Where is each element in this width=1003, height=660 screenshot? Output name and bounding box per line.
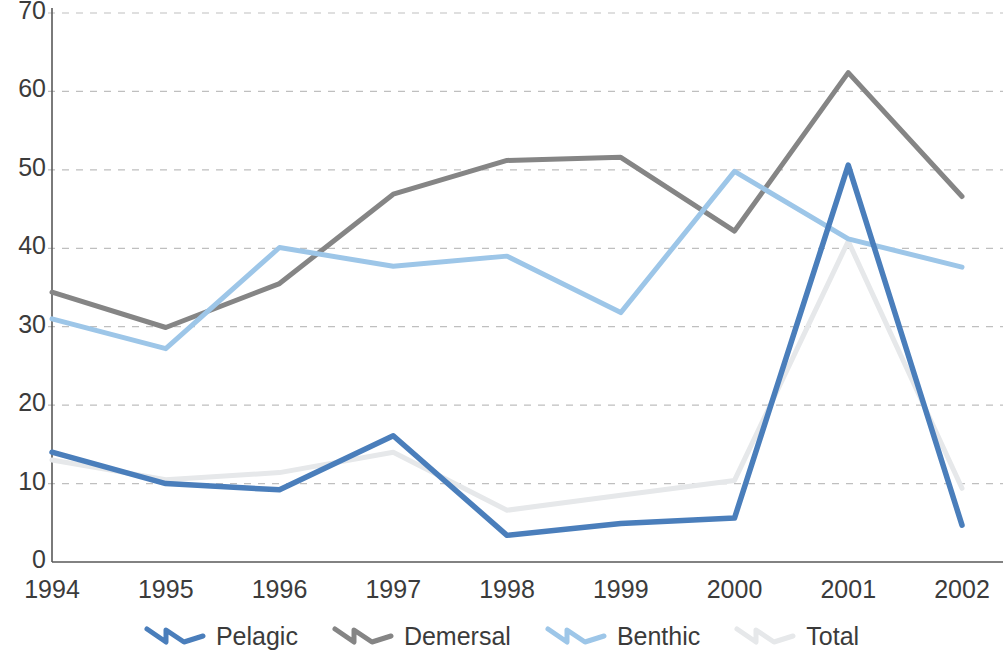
legend-line-icon bbox=[144, 623, 206, 649]
x-tick-label: 2000 bbox=[685, 575, 785, 604]
x-tick-label: 2002 bbox=[912, 575, 1003, 604]
y-tick-label: 30 bbox=[0, 310, 46, 339]
plot-area bbox=[0, 0, 1003, 660]
x-tick-label: 1996 bbox=[230, 575, 330, 604]
y-tick-label: 60 bbox=[0, 74, 46, 103]
y-tick-label: 0 bbox=[0, 545, 46, 574]
legend-line-icon bbox=[545, 623, 607, 649]
y-tick-label: 50 bbox=[0, 153, 46, 182]
series-line-total bbox=[52, 241, 962, 510]
y-tick-label: 40 bbox=[0, 231, 46, 260]
series-line-benthic bbox=[52, 171, 962, 348]
legend-item-benthic[interactable]: Benthic bbox=[545, 622, 700, 651]
legend-label: Pelagic bbox=[216, 622, 298, 651]
legend-item-total[interactable]: Total bbox=[734, 622, 859, 651]
x-tick-label: 2001 bbox=[798, 575, 898, 604]
legend-item-demersal[interactable]: Demersal bbox=[332, 622, 511, 651]
legend-label: Demersal bbox=[404, 622, 511, 651]
chart-legend: PelagicDemersalBenthicTotal bbox=[0, 612, 1003, 660]
series-lines bbox=[52, 73, 962, 536]
x-tick-label: 1998 bbox=[457, 575, 557, 604]
y-tick-label: 10 bbox=[0, 467, 46, 496]
y-tick-label: 20 bbox=[0, 388, 46, 417]
line-chart: 010203040506070 199419951996199719981999… bbox=[0, 0, 1003, 660]
y-tick-label: 70 bbox=[0, 0, 46, 25]
x-tick-label: 1994 bbox=[2, 575, 102, 604]
x-tick-label: 1997 bbox=[343, 575, 443, 604]
x-tick-label: 1995 bbox=[116, 575, 216, 604]
x-tick-label: 1999 bbox=[571, 575, 671, 604]
legend-item-pelagic[interactable]: Pelagic bbox=[144, 622, 298, 651]
legend-line-icon bbox=[734, 623, 796, 649]
legend-label: Total bbox=[806, 622, 859, 651]
legend-label: Benthic bbox=[617, 622, 700, 651]
legend-line-icon bbox=[332, 623, 394, 649]
